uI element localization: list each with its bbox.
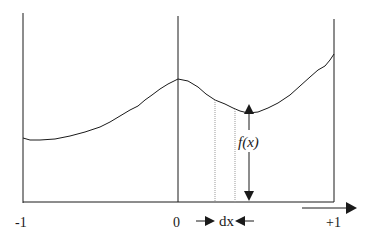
- x-label-plus-one: +1: [326, 215, 341, 230]
- dx-right-arrow-icon: [235, 216, 254, 226]
- function-label: f(x): [238, 134, 259, 151]
- fx-double-arrow-icon: [244, 104, 254, 201]
- integral-diagram: f(x) -1 0 +1 dx: [0, 0, 372, 246]
- x-label-zero: 0: [173, 215, 180, 230]
- dx-label: dx: [219, 213, 235, 229]
- x-direction-arrow-icon: [302, 202, 357, 214]
- dx-left-arrow-icon: [196, 216, 215, 226]
- x-label-minus-one: -1: [15, 215, 27, 230]
